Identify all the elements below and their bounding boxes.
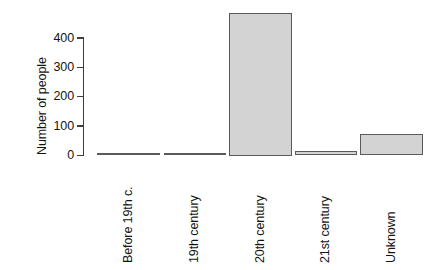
x-axis-label: Before 19th c.	[121, 159, 136, 263]
bar	[164, 153, 227, 156]
x-axis-label: Unknown	[384, 159, 399, 263]
bar	[97, 153, 160, 156]
x-axis-label: 21st century	[318, 159, 333, 263]
plot-area	[0, 0, 442, 160]
x-axis-label: 19th century	[187, 159, 202, 263]
bar	[229, 13, 292, 155]
bar-chart: Number of people 0100200300400 Before 19…	[0, 0, 442, 270]
bar	[360, 134, 423, 155]
x-axis-label: 20th century	[253, 159, 268, 263]
bar	[295, 151, 358, 156]
